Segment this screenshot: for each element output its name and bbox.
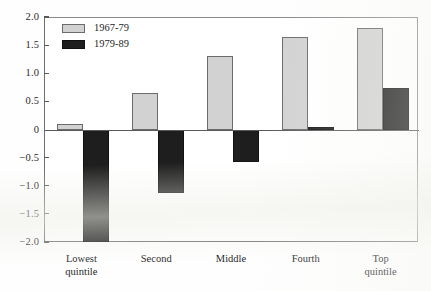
x-axis-category-line: quintile xyxy=(343,265,418,278)
legend-swatch-dark-icon xyxy=(62,40,85,49)
zero-baseline xyxy=(45,130,419,132)
y-axis-tick-label: 1.0 xyxy=(26,68,39,79)
bar-series1 xyxy=(282,37,308,130)
legend-label: 1967-79 xyxy=(94,23,129,34)
x-axis-category-label: Lowestquintile xyxy=(44,252,119,278)
legend-entry: 1967-79 xyxy=(62,22,129,35)
legend-swatch-light-icon xyxy=(62,24,85,33)
y-axis-tick-label: −1.0 xyxy=(20,181,39,192)
y-axis-tick-label: −0.5 xyxy=(20,153,39,164)
bar-series2 xyxy=(383,88,409,129)
x-axis-category-line: Top xyxy=(343,252,418,265)
y-axis-tick-mark xyxy=(44,185,49,186)
y-axis-labels: 2.01.51.00.50−0.5−1.0−1.5−2.0 xyxy=(0,0,39,291)
x-axis-category-label: Middle xyxy=(194,252,269,265)
bar-series2 xyxy=(233,130,259,162)
x-axis-category-label: Topquintile xyxy=(343,252,418,278)
bar-series1 xyxy=(357,28,383,129)
y-axis-tick-mark xyxy=(44,73,49,74)
x-axis-category-line: Middle xyxy=(194,252,269,265)
y-axis-tick-label: 0 xyxy=(34,125,39,136)
y-axis-tick-label: 0.5 xyxy=(26,96,39,107)
y-axis-tick-mark xyxy=(44,45,49,46)
x-axis-category-line: Second xyxy=(119,252,194,265)
y-axis-tick-mark xyxy=(44,101,49,102)
legend-entry: 1979-89 xyxy=(62,38,129,51)
y-axis-tick-label: 2.0 xyxy=(26,12,39,23)
bar-series1 xyxy=(132,93,158,130)
bar-series1 xyxy=(207,56,233,129)
chart-figure: 2.01.51.00.50−0.5−1.0−1.5−2.0 1967-79197… xyxy=(0,0,431,291)
x-axis-category-line: Fourth xyxy=(268,252,343,265)
chart-legend: 1967-791979-89 xyxy=(62,22,129,54)
x-axis-category-line: quintile xyxy=(44,265,119,278)
bar-series2 xyxy=(83,130,109,243)
legend-label: 1979-89 xyxy=(94,39,129,50)
y-axis-tick-label: 1.5 xyxy=(26,40,39,51)
x-axis-category-line: Lowest xyxy=(44,252,119,265)
y-axis-tick-mark xyxy=(44,213,49,214)
y-axis-tick-mark xyxy=(44,241,49,242)
x-axis-category-label: Second xyxy=(119,252,194,265)
y-axis-tick-label: −2.0 xyxy=(20,237,39,248)
y-axis-tick-label: −1.5 xyxy=(20,209,39,220)
y-axis-tick-mark xyxy=(44,157,49,158)
bar-series2 xyxy=(158,130,184,194)
x-axis-category-label: Fourth xyxy=(268,252,343,265)
y-axis-tick-mark xyxy=(44,16,49,17)
bar-series1 xyxy=(57,124,83,130)
